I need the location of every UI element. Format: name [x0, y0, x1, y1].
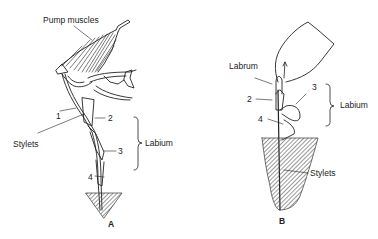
panel-label-b: B [279, 217, 285, 226]
panel-a-drawing [38, 20, 142, 218]
label-2-b: 2 [247, 95, 252, 104]
labium-brace-b [326, 84, 334, 126]
label-labium-b: Labium [340, 101, 368, 110]
label-4-b: 4 [258, 115, 263, 124]
label-stylets-a: Stylets [13, 140, 39, 149]
label-stylets-b: Stylets [310, 169, 336, 178]
leader-4-b [268, 119, 283, 124]
leader-pump-muscles [74, 26, 92, 40]
label-2-a: 2 [108, 114, 113, 123]
leader-1-a [60, 108, 76, 111]
panel-b-drawing [255, 22, 334, 210]
leader-2-b [256, 99, 272, 100]
label-3-b: 3 [312, 83, 317, 92]
leader-labrum [255, 78, 272, 84]
labium-illustration-b [276, 90, 300, 140]
label-labium-a: Labium [145, 139, 173, 148]
diagram-canvas: Pump muscles Stylets Labium 1 2 3 4 A La… [0, 0, 378, 239]
labium-brace-a [134, 117, 142, 170]
leader-stylets-a [38, 114, 84, 133]
plant-tissue-a [86, 193, 122, 218]
label-labrum: Labrum [229, 62, 258, 71]
label-4-a: 4 [88, 173, 93, 182]
label-pump-muscles: Pump muscles [43, 16, 99, 25]
pump-muscles-illustration [56, 20, 136, 100]
label-1-a: 1 [56, 112, 61, 121]
stylets-illustration-a [62, 74, 102, 210]
panel-label-a: A [108, 220, 114, 229]
leader-3-b [296, 94, 306, 104]
label-3-a: 3 [118, 147, 123, 156]
